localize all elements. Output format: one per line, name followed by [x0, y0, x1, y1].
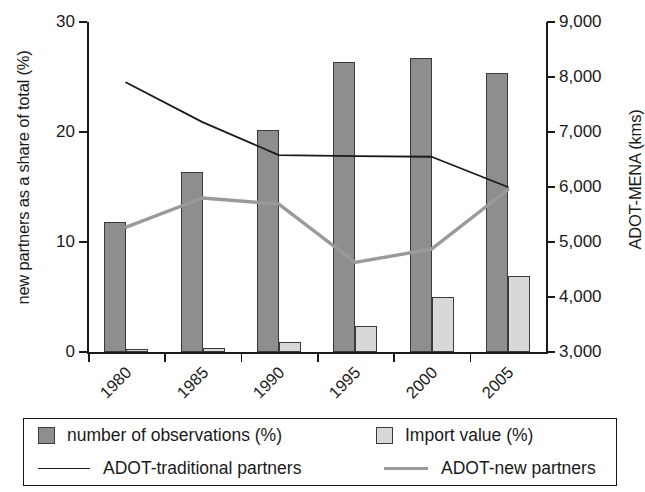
y-axis-right-tick — [547, 76, 555, 78]
line-traditional-partners — [126, 83, 508, 188]
line-black-swatch — [38, 468, 90, 469]
line-new-partners — [126, 190, 508, 263]
y-axis-right-tick-label: 7,000 — [559, 122, 602, 142]
y-axis-right-tick — [547, 21, 555, 23]
y-axis-right-tick-label: 8,000 — [559, 67, 602, 87]
legend-label: number of observations (%) — [67, 425, 282, 446]
line-series-container — [88, 22, 546, 352]
legend-label: ADOT-new partners — [441, 458, 596, 479]
y-axis-left-tick — [79, 351, 87, 353]
square-dark-swatch — [38, 427, 55, 444]
y-axis-right-tick — [547, 131, 555, 133]
x-axis-tick-label-1995: 1995 — [325, 363, 364, 402]
legend-label: ADOT-traditional partners — [103, 458, 301, 479]
x-axis-tick-label-1980: 1980 — [96, 363, 135, 402]
legend-item: number of observations (%) — [24, 425, 354, 446]
y-axis-right-tick-label: 9,000 — [559, 12, 602, 32]
y-axis-right-tick-label: 5,000 — [559, 232, 602, 252]
legend-item: Import value (%) — [354, 425, 616, 446]
y-axis-left-tick-label: 10 — [56, 232, 75, 252]
y-axis-right-tick — [547, 186, 555, 188]
square-light-swatch — [376, 427, 393, 444]
legend-box: number of observations (%)Import value (… — [23, 418, 617, 486]
legend-item: ADOT-traditional partners — [24, 458, 354, 479]
plot-area: 0102030 3,0004,0005,0006,0007,0008,0009,… — [88, 22, 546, 352]
y-axis-left-tick — [79, 131, 87, 133]
x-axis-tick — [470, 353, 472, 362]
y-axis-left-tick — [79, 21, 87, 23]
x-axis-tick-label-1985: 1985 — [173, 363, 212, 402]
x-axis-tick-label-2000: 2000 — [402, 363, 441, 402]
legend-label: Import value (%) — [405, 425, 533, 446]
y-axis-right-tick — [547, 296, 555, 298]
y-axis-right-tick-label: 6,000 — [559, 177, 602, 197]
y-axis-right-title: ADOT-MENA (kms) — [626, 15, 645, 345]
x-axis-tick — [393, 353, 395, 362]
y-axis-left-tick-label: 30 — [56, 12, 75, 32]
x-axis-tick — [88, 353, 90, 362]
y-axis-right-tick-label: 3,000 — [559, 342, 602, 362]
x-axis-tick — [164, 353, 166, 362]
y-axis-left-tick — [79, 241, 87, 243]
x-axis-tick-label-2005: 2005 — [478, 363, 517, 402]
x-axis-tick — [241, 353, 243, 362]
line-gray-swatch — [384, 467, 428, 470]
x-axis-tick — [317, 353, 319, 362]
y-axis-right-tick-label: 4,000 — [559, 287, 602, 307]
y-axis-left-tick-label: 0 — [66, 342, 75, 362]
y-axis-right-tick — [547, 241, 555, 243]
y-axis-left-tick-label: 20 — [56, 122, 75, 142]
legend-item: ADOT-new partners — [354, 458, 616, 479]
y-axis-left-title: new partners as a share of total (%) — [14, 13, 33, 343]
y-axis-right-tick — [547, 351, 555, 353]
x-axis-tick-label-1990: 1990 — [249, 363, 288, 402]
